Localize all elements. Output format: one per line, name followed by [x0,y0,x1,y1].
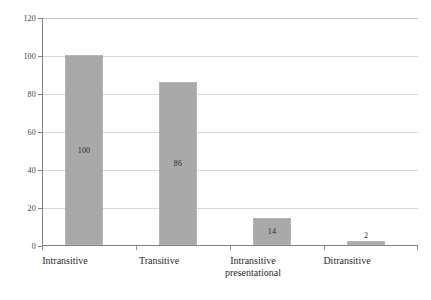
y-tick-label-20: 20 [4,204,36,213]
x-tick-mark-3 [324,246,325,250]
x-tick-mark-1 [136,246,137,250]
bar-ditransitive[interactable] [347,241,385,245]
y-tick-label-80: 80 [4,90,36,99]
x-category-label-line: Ditransitive [323,255,370,266]
bar-value-ditransitive: 2 [336,231,396,240]
x-category-label-line: Intransitive [230,255,276,266]
y-tick-label-120: 120 [4,14,36,23]
plot-area: 100 86 14 2 [42,18,418,246]
y-tick-label-100: 100 [4,52,36,61]
bar-value-intransitive-presentational: 14 [242,227,302,236]
x-category-label-ditransitive: Ditransitive [287,255,407,267]
x-tick-mark-4 [417,246,418,250]
y-tick-label-40: 40 [4,166,36,175]
x-category-label-line: Transitive [139,255,179,266]
bar-chart: 120 100 80 60 40 20 0 [0,0,431,300]
bar-value-intransitive: 100 [54,146,114,155]
y-tick-label-60: 60 [4,128,36,137]
y-tick-label-0: 0 [4,242,36,251]
gridline-120 [42,18,418,19]
bar-value-transitive: 86 [148,159,208,168]
x-category-label-line: presentational [225,267,281,278]
y-axis-line [42,18,43,246]
x-category-label-line: Intransitive [42,255,88,266]
x-tick-mark-0 [42,246,43,250]
x-tick-mark-2 [230,246,231,250]
